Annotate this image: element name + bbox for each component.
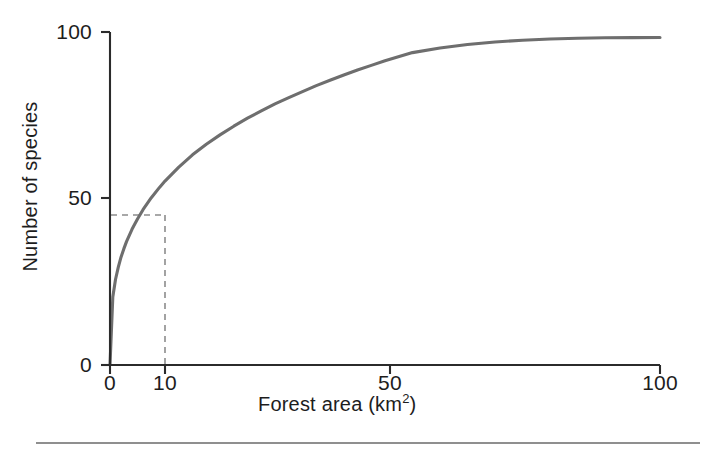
guideline-annotation <box>111 215 165 364</box>
species-area-curve <box>110 38 660 366</box>
y-axis <box>101 32 110 365</box>
species-area-figure: 100 50 0 0 10 50 100 Number of species F… <box>0 0 720 461</box>
x-tick-label-50: 50 <box>355 371 425 395</box>
x-axis-title-superscript: 2 <box>402 391 409 406</box>
y-axis-title: Number of species <box>19 67 42 307</box>
x-axis-title-tail: ) <box>410 393 417 415</box>
y-axis-title-wrap: Number of species <box>0 0 60 370</box>
x-tick-label-100: 100 <box>625 371 695 395</box>
x-tick-label-10: 10 <box>130 371 200 395</box>
x-axis-title: Forest area (km2) <box>258 393 416 416</box>
x-axis-title-base: Forest area (km <box>258 393 402 415</box>
